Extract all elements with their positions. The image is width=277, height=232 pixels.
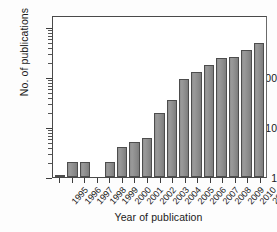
bar-cell xyxy=(253,17,265,177)
bar xyxy=(142,138,152,177)
bar-cell xyxy=(54,17,66,177)
x-tick xyxy=(260,178,261,183)
x-axis-title: Year of publication xyxy=(46,211,271,223)
bar-cell xyxy=(203,17,215,177)
x-tick xyxy=(122,178,123,183)
bar xyxy=(241,50,251,177)
x-tick xyxy=(134,178,135,183)
bar-cell xyxy=(141,17,153,177)
bar xyxy=(67,162,77,177)
bar-cell xyxy=(104,17,116,177)
x-tick xyxy=(235,178,236,183)
x-tick xyxy=(247,178,248,183)
bar-cell xyxy=(116,17,128,177)
x-tick xyxy=(84,178,85,183)
bar-cell xyxy=(240,17,252,177)
plot-area xyxy=(52,16,267,178)
x-tick xyxy=(147,178,148,183)
bar xyxy=(167,100,177,177)
x-tick xyxy=(109,178,110,183)
bar-cell xyxy=(215,17,227,177)
x-tick xyxy=(185,178,186,183)
bar xyxy=(216,58,226,177)
bar-cell xyxy=(153,17,165,177)
x-tick xyxy=(97,178,98,183)
bar-series xyxy=(53,17,266,177)
bar-cell xyxy=(178,17,190,177)
bar-cell xyxy=(128,17,140,177)
y-tick-major xyxy=(46,178,52,179)
x-tick xyxy=(197,178,198,183)
x-tick xyxy=(59,178,60,183)
bar xyxy=(105,162,115,177)
x-tick xyxy=(210,178,211,183)
bar xyxy=(254,43,264,177)
bar xyxy=(80,162,90,177)
x-tick xyxy=(72,178,73,183)
x-tick xyxy=(222,178,223,183)
x-tick xyxy=(172,178,173,183)
bar xyxy=(154,113,164,177)
bar xyxy=(129,142,139,177)
bar-cell xyxy=(91,17,103,177)
bar-cell xyxy=(66,17,78,177)
bar xyxy=(204,65,214,177)
x-tick xyxy=(160,178,161,183)
bar-cell xyxy=(166,17,178,177)
bar xyxy=(179,79,189,177)
bar xyxy=(229,57,239,177)
bar xyxy=(191,72,201,177)
publications-bar-chart: No. of publications 110100 1995199619971… xyxy=(0,0,277,232)
bar-cell xyxy=(190,17,202,177)
bar xyxy=(55,175,65,177)
y-axis-title: No. of publications xyxy=(18,0,30,122)
bar-cell xyxy=(228,17,240,177)
bar xyxy=(117,147,127,177)
bar-cell xyxy=(79,17,91,177)
